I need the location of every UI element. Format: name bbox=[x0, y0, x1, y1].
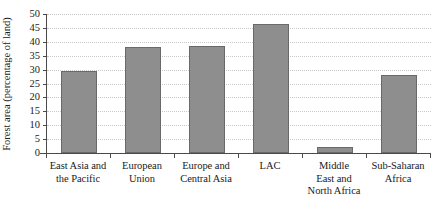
plot-inner bbox=[47, 14, 431, 153]
x-axis-line bbox=[40, 153, 430, 154]
gridline bbox=[47, 70, 431, 71]
y-axis-tick-label: 15 bbox=[30, 106, 41, 117]
gridline bbox=[47, 56, 431, 57]
y-axis-tick-label: 10 bbox=[30, 120, 41, 131]
y-axis-tick-label: 25 bbox=[30, 78, 41, 89]
y-axis-tick-label: 40 bbox=[30, 37, 41, 48]
gridline bbox=[47, 14, 431, 15]
gridline bbox=[47, 84, 431, 85]
bar bbox=[381, 75, 417, 153]
y-axis-tick-mark bbox=[43, 56, 47, 57]
bar bbox=[61, 71, 97, 153]
x-axis-tick-mark bbox=[366, 153, 367, 158]
y-axis-tick-mark bbox=[43, 84, 47, 85]
gridline bbox=[47, 42, 431, 43]
y-axis-title: Forest area (percentage of land) bbox=[0, 10, 14, 158]
x-axis-tick-mark bbox=[110, 153, 111, 158]
gridline bbox=[47, 97, 431, 98]
y-axis-tick-label: 50 bbox=[30, 9, 41, 20]
x-axis-category-label: Sub-Saharan Africa bbox=[359, 160, 436, 185]
y-axis-tick-mark bbox=[43, 28, 47, 29]
y-axis-tick-labels: 05101520253035404550 bbox=[18, 8, 42, 160]
bar bbox=[253, 24, 289, 153]
y-axis-tick-label: 35 bbox=[30, 50, 41, 61]
x-axis-tick-mark bbox=[238, 153, 239, 158]
y-axis-tick-label: 45 bbox=[30, 23, 41, 34]
y-axis-tick-mark bbox=[43, 97, 47, 98]
y-axis-tick-label: 5 bbox=[35, 134, 40, 145]
gridline bbox=[47, 139, 431, 140]
forest-area-bar-chart: Forest area (percentage of land) 0510152… bbox=[0, 0, 436, 210]
plot-area bbox=[46, 14, 431, 153]
y-axis-tick-mark bbox=[43, 14, 47, 15]
x-axis-tick-mark bbox=[46, 153, 47, 158]
y-axis-tick-mark bbox=[43, 139, 47, 140]
x-axis-tick-mark bbox=[430, 153, 431, 158]
x-axis-tick-mark bbox=[174, 153, 175, 158]
y-axis-tick-mark bbox=[43, 42, 47, 43]
gridline bbox=[47, 111, 431, 112]
y-axis-title-text: Forest area (percentage of land) bbox=[1, 17, 13, 151]
y-axis-tick-mark bbox=[43, 125, 47, 126]
x-axis-tick-mark bbox=[302, 153, 303, 158]
y-axis-tick-label: 30 bbox=[30, 64, 41, 75]
gridline bbox=[47, 125, 431, 126]
y-axis-tick-mark bbox=[43, 111, 47, 112]
gridline bbox=[47, 28, 431, 29]
bar bbox=[189, 46, 225, 153]
y-axis-tick-mark bbox=[43, 70, 47, 71]
y-axis-tick-label: 20 bbox=[30, 92, 41, 103]
bar bbox=[125, 47, 161, 153]
